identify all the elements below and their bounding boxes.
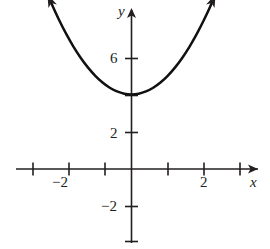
y-tick-label-2: 2 <box>110 126 118 141</box>
x-tick-label-2: 2 <box>200 175 208 190</box>
y-axis-group <box>125 8 138 243</box>
plot-canvas <box>0 0 270 249</box>
x-axis-label: x <box>250 175 257 190</box>
y-tick-label-6: 6 <box>110 51 118 66</box>
y-axis-label: y <box>118 4 125 19</box>
parabola-figure: −2 2 6 2 −2 x y <box>0 0 270 249</box>
x-tick-label--2: −2 <box>52 175 68 190</box>
y-tick-label--2: −2 <box>101 199 117 214</box>
